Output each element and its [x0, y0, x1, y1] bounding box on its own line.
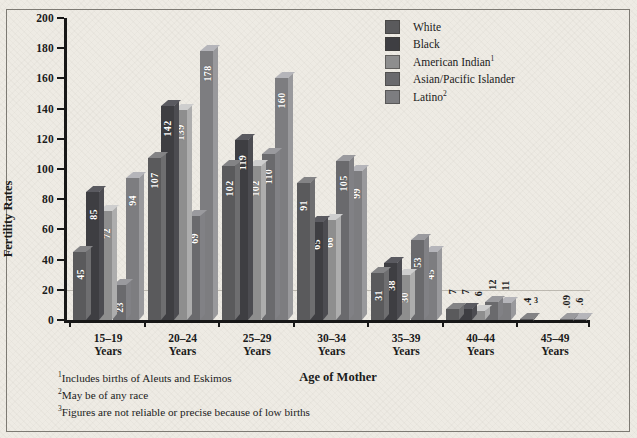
bar-side	[349, 155, 354, 320]
x-category-range: 30–34	[317, 332, 346, 345]
bar[interactable]: .09	[560, 319, 573, 321]
bar-value-label: 94	[127, 195, 138, 206]
bar-side	[288, 72, 293, 320]
bar[interactable]: 91	[297, 183, 310, 320]
x-category-range: 40–44	[466, 332, 495, 345]
x-category-unit: Years	[541, 345, 570, 358]
bar[interactable]: 102	[222, 166, 235, 320]
x-category-range: 45–49	[541, 332, 570, 345]
bar-side	[310, 177, 315, 320]
y-tick	[57, 47, 64, 49]
bar[interactable]: .6	[573, 319, 586, 321]
bar-side	[112, 205, 117, 320]
bar-side	[86, 246, 91, 320]
bar-value-label: 6	[473, 291, 484, 296]
bar-side	[213, 45, 218, 320]
x-category-label: 25–29Years	[243, 332, 272, 358]
bar-value-label: 53	[412, 257, 423, 268]
bar-value-label: .09	[561, 294, 572, 307]
legend-item[interactable]: Asian/Pacific Islander	[385, 71, 515, 89]
x-category-range: 20–24	[168, 332, 197, 345]
legend-label: White	[413, 21, 441, 33]
y-tick-label: 40	[42, 254, 54, 266]
bar[interactable]: 7	[446, 309, 459, 320]
legend-footnote-marker: 1	[491, 54, 495, 63]
x-tick	[218, 320, 220, 327]
low-birth-footnote-marker: 3	[534, 296, 538, 305]
legend-swatch	[385, 55, 400, 69]
x-tick	[367, 320, 369, 327]
bar-side	[362, 165, 367, 320]
bar[interactable]: 31	[371, 273, 384, 320]
bar-side	[200, 210, 205, 320]
bar-face	[73, 252, 86, 320]
bar-side	[437, 246, 442, 320]
y-axis-title: Fertility Rates	[1, 181, 16, 258]
bar-value-label: 7	[447, 289, 458, 294]
bar-side	[275, 148, 280, 320]
bar-side	[187, 104, 192, 320]
bar-value-label: .4	[521, 297, 532, 305]
legend-item[interactable]: White	[385, 18, 515, 36]
legend-item[interactable]: Black	[385, 36, 515, 54]
bar-value-label: 7	[460, 289, 471, 294]
bar-value-label: 160	[276, 93, 287, 109]
bar[interactable]: 45	[73, 252, 86, 320]
y-tick	[57, 289, 64, 291]
bar-side	[424, 234, 429, 320]
bar-side	[235, 160, 240, 320]
x-category-label: 15–19Years	[94, 332, 123, 358]
y-tick	[57, 138, 64, 140]
footnote-text: Includes births of Aleuts and Eskimos	[62, 372, 232, 384]
x-category-label: 45–49Years	[541, 332, 570, 358]
footnote-text: May be of any race	[62, 389, 148, 401]
bar-side	[410, 269, 415, 320]
bar-value-label: 91	[298, 200, 309, 211]
y-tick	[57, 168, 64, 170]
y-tick	[57, 108, 64, 110]
x-category-unit: Years	[94, 345, 123, 358]
legend-item[interactable]: Latino2	[385, 88, 515, 106]
bar-value-label: 11	[499, 281, 510, 291]
x-category-label: 20–24Years	[168, 332, 197, 358]
x-category-range: 35–39	[392, 332, 421, 345]
legend-swatch	[385, 90, 400, 104]
bar-side	[384, 267, 389, 320]
y-tick-label: 160	[36, 72, 54, 84]
x-category-range: 25–29	[243, 332, 272, 345]
bar-value-label: 102	[223, 181, 234, 197]
bar-value-label: 178	[201, 66, 212, 82]
legend-item[interactable]: American Indian1	[385, 53, 515, 71]
x-tick	[293, 320, 295, 327]
bar-side	[248, 134, 253, 320]
y-tick-label: 140	[36, 103, 54, 115]
x-category-unit: Years	[317, 345, 346, 358]
bar-side	[174, 100, 179, 320]
x-axis-title: Age of Mother	[299, 370, 377, 385]
bar-value-label: 105	[337, 176, 348, 192]
bar-side	[126, 279, 131, 320]
legend-label: Latino2	[413, 91, 447, 103]
bar-value-label: 12	[486, 279, 497, 290]
x-tick	[144, 320, 146, 327]
bar-group: .4.09.6	[520, 18, 592, 320]
legend-label: Black	[413, 38, 440, 50]
x-category-label: 35–39Years	[392, 332, 421, 358]
legend-swatch	[385, 37, 400, 51]
x-tick	[442, 320, 444, 327]
bar[interactable]: 107	[148, 158, 161, 320]
x-category-unit: Years	[168, 345, 197, 358]
x-category-unit: Years	[466, 345, 495, 358]
x-category-range: 15–19	[94, 332, 123, 345]
bar-value-label: 107	[149, 173, 160, 189]
bar-value-label: 142	[162, 120, 173, 136]
bar-group: 4585722394	[73, 18, 145, 320]
bar[interactable]: .4	[520, 319, 533, 321]
y-tick	[57, 319, 64, 321]
bar-side	[323, 216, 328, 320]
y-tick	[57, 228, 64, 230]
y-tick-label: 80	[42, 193, 54, 205]
y-tick-label: 200	[36, 12, 54, 24]
x-tick	[516, 320, 518, 327]
footnote: 2May be of any race	[58, 387, 310, 404]
